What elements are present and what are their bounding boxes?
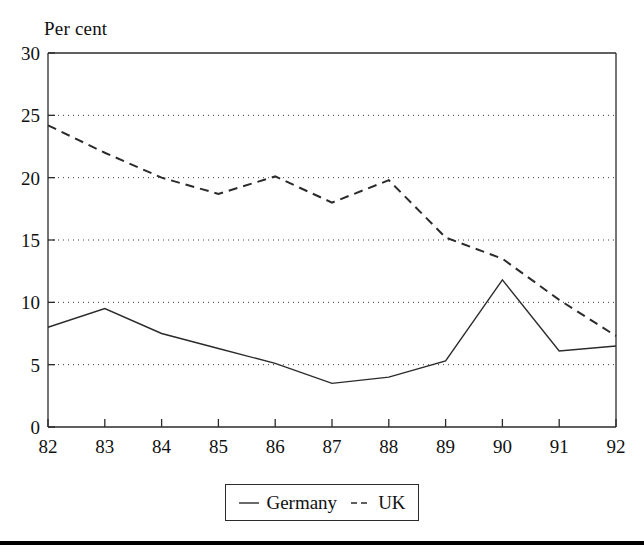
series-line-germany (48, 280, 616, 383)
x-tick-label-84: 84 (152, 436, 172, 457)
x-tick-label-91: 91 (550, 436, 569, 457)
x-tick-marks-group (48, 419, 616, 427)
line-chart-plot: 051015202530 8283848586878889909192 (0, 0, 644, 552)
legend-dashed-line-icon (350, 498, 372, 508)
x-tick-label-82: 82 (39, 436, 58, 457)
legend-label-uk: UK (378, 492, 405, 514)
series-lines-group (48, 125, 616, 383)
y-tick-marks-group (48, 53, 55, 427)
gridlines-group (48, 115, 616, 364)
x-tick-label-90: 90 (493, 436, 512, 457)
y-tick-label-25: 25 (21, 105, 40, 126)
legend-item-uk: UK (350, 492, 405, 514)
chart-legend: Germany UK (225, 484, 419, 521)
y-tick-label-20: 20 (21, 168, 40, 189)
y-tick-label-5: 5 (31, 355, 41, 376)
x-tick-label-85: 85 (209, 436, 228, 457)
x-tick-label-86: 86 (266, 436, 285, 457)
y-tick-labels-group: 051015202530 (21, 43, 40, 438)
series-line-uk (48, 125, 616, 336)
legend-label-germany: Germany (266, 492, 337, 514)
y-tick-label-30: 30 (21, 43, 40, 64)
x-tick-label-87: 87 (323, 436, 342, 457)
bottom-divider-rule (0, 541, 644, 545)
legend-solid-line-icon (238, 498, 260, 508)
y-tick-label-15: 15 (21, 230, 40, 251)
x-tick-label-88: 88 (379, 436, 398, 457)
chart-figure: Per cent 051015202530 828384858687888990… (0, 0, 644, 552)
x-tick-label-92: 92 (607, 436, 626, 457)
x-tick-labels-group: 8283848586878889909192 (39, 436, 626, 457)
y-tick-label-10: 10 (21, 292, 40, 313)
x-tick-label-89: 89 (436, 436, 455, 457)
legend-item-germany: Germany (238, 492, 337, 514)
y-tick-label-0: 0 (31, 417, 41, 438)
x-tick-label-83: 83 (95, 436, 114, 457)
